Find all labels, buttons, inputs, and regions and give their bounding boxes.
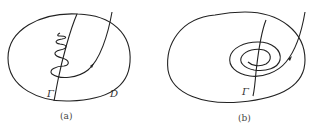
trajectory-a (51, 12, 112, 77)
label-region-d: D (110, 88, 118, 99)
label-gamma-a: Γ (47, 88, 54, 99)
label-gamma-b: Γ (242, 86, 249, 97)
caption-b: (b) (238, 113, 251, 123)
region-boundary-b (168, 12, 305, 103)
caption-a: (a) (60, 111, 72, 121)
trajectory-b (230, 12, 305, 76)
figure-b (168, 12, 305, 103)
curve-gamma-b (253, 20, 266, 96)
curve-gamma-a (54, 14, 77, 101)
diagram-canvas (0, 0, 321, 132)
